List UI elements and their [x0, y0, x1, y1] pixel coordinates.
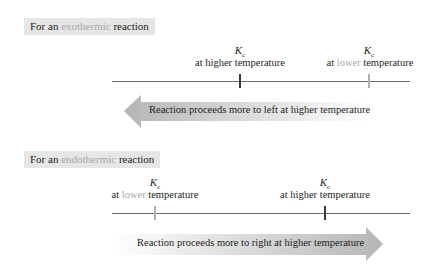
tick-endo-higher [324, 206, 326, 220]
tick-exo-higher [239, 74, 241, 88]
marker-prefix: at [195, 57, 205, 68]
tick-exo-lower [368, 74, 370, 88]
marker-accent: higher [290, 189, 317, 200]
label-suffix: reaction [116, 153, 154, 165]
marker-suffix: temperature [146, 189, 199, 200]
kc-k: K [235, 44, 242, 56]
marker-prefix: at [112, 189, 122, 200]
label-accent: endothermic [61, 153, 116, 165]
marker-accent: lower [337, 57, 361, 68]
label-prefix: For an [30, 153, 61, 165]
exothermic-arrow-text: Reaction proceeds more to left at higher… [149, 104, 370, 115]
marker-text-exo-low: at lower temperature [322, 57, 418, 68]
endothermic-axis-line [112, 213, 410, 214]
marker-suffix: temperature [317, 189, 370, 200]
exothermic-axis-line [112, 81, 410, 82]
kc-k: K [364, 44, 371, 56]
marker-text-endo-low: at lower temperature [107, 189, 203, 200]
tick-endo-lower [154, 206, 156, 220]
marker-prefix: at [280, 189, 290, 200]
endothermic-arrow-text: Reaction proceeds more to right at highe… [137, 237, 364, 248]
marker-prefix: at [327, 57, 337, 68]
label-prefix: For an [30, 20, 61, 32]
marker-text-exo-high: at higher temperature [177, 57, 303, 68]
exothermic-label: For an exothermic reaction [24, 18, 155, 35]
label-suffix: reaction [111, 20, 149, 32]
endothermic-label: For an endothermic reaction [24, 151, 160, 168]
label-accent: exothermic [61, 20, 110, 32]
marker-suffix: temperature [232, 57, 285, 68]
marker-accent: lower [122, 189, 146, 200]
marker-text-endo-high: at higher temperature [262, 189, 388, 200]
kc-k: K [150, 176, 157, 188]
marker-suffix: temperature [361, 57, 414, 68]
marker-accent: higher [205, 57, 232, 68]
kc-k: K [320, 176, 327, 188]
